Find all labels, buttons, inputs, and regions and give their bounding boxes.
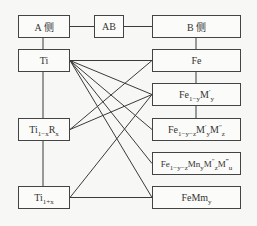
node-ti1-x-rx-label: Ti1−xRx [29,124,59,135]
b-side-box: B 侧 [152,15,241,38]
node-femmy-label: FeMmy [181,192,211,203]
node-ti1+x-label: Ti1+x [34,192,54,203]
ab-box: AB [94,15,124,38]
b-side-label: B 侧 [187,19,206,34]
node-fe-label: Fe [192,55,202,66]
node-fe1-y-z-m1y-m2z: Fe1−y−zM′yM″z [152,118,241,141]
a-side-box: A 侧 [18,15,70,38]
node-fe1-y-z-mny-m2z-m3u: Fe1−y−zMnyM″zM‴u [152,152,241,175]
node-femmy: FeMmy [152,186,241,209]
node-ti1+x: Ti1+x [18,186,70,209]
node-fe1-y-z-m1y-m2z-label: Fe1−y−zM′yM″z [168,124,225,135]
node-ti-label: Ti [40,55,49,66]
node-fe1-y-z-mny-m2z-m3u-label: Fe1−y−zMnyM″zM‴u [161,159,233,169]
a-side-label: A 侧 [34,19,53,34]
node-fe: Fe [152,49,241,72]
node-fe1-y-m1y-label: Fe1−yM′y [179,89,214,100]
ab-label: AB [102,21,116,32]
node-fe1-y-m1y: Fe1−yM′y [152,83,241,106]
node-ti1-x-rx: Ti1−xRx [18,118,70,141]
node-ti: Ti [18,49,70,72]
